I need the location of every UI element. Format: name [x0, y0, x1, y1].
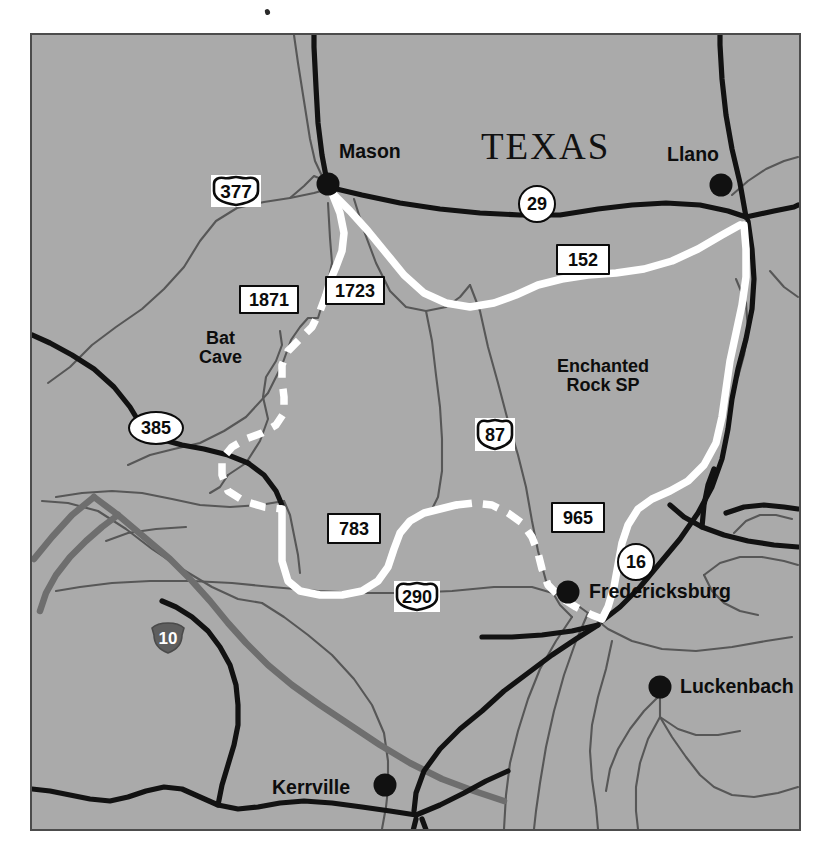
state-label: TEXAS: [481, 127, 610, 166]
map-page: TEXAS Mason Llano Fredericksburg Luckenb…: [0, 0, 828, 867]
route-shield-29-label: 29: [527, 195, 547, 213]
route-shield-377-label: 377: [220, 182, 252, 201]
route-shield-16[interactable]: 16: [617, 543, 655, 581]
route-shield-i10[interactable]: 10: [149, 621, 187, 655]
route-shield-i10-label: 10: [159, 630, 178, 647]
image-speck-artifact: [264, 8, 270, 15]
route-shield-965-label: 965: [563, 509, 593, 527]
city-dot-llano: [710, 174, 733, 197]
route-shield-87-label: 87: [485, 426, 505, 444]
route-shield-385[interactable]: 385: [128, 411, 184, 445]
route-shield-385-label: 385: [141, 419, 171, 437]
route-shield-1723[interactable]: 1723: [325, 276, 385, 305]
route-shield-290-label: 290: [402, 588, 432, 606]
route-shield-783-label: 783: [339, 520, 369, 538]
route-shield-1871[interactable]: 1871: [239, 285, 299, 314]
city-label-llano: Llano: [667, 144, 719, 165]
route-shield-16-label: 16: [626, 553, 646, 571]
city-label-kerrville: Kerrville: [272, 777, 350, 798]
route-shield-965[interactable]: 965: [551, 502, 605, 533]
map-frame: TEXAS Mason Llano Fredericksburg Luckenb…: [30, 33, 801, 831]
city-dot-luckenbach: [649, 676, 672, 699]
route-shield-290[interactable]: 290: [394, 581, 440, 612]
city-label-mason: Mason: [339, 141, 401, 162]
route-shield-1723-label: 1723: [335, 282, 375, 300]
place-label-enchanted-rock-sp: Enchanted Rock SP: [557, 357, 649, 395]
place-label-bat-cave: Bat Cave: [199, 329, 242, 367]
route-shield-377[interactable]: 377: [211, 175, 261, 207]
city-dot-mason: [317, 173, 340, 196]
city-label-fredericksburg: Fredericksburg: [589, 581, 731, 602]
city-label-luckenbach: Luckenbach: [680, 676, 794, 697]
route-shield-29[interactable]: 29: [518, 185, 556, 223]
route-shield-1871-label: 1871: [249, 291, 289, 309]
city-dot-fredericksburg: [557, 581, 580, 604]
route-shield-783[interactable]: 783: [327, 513, 381, 544]
city-dot-kerrville: [374, 774, 397, 797]
route-shield-152-label: 152: [568, 251, 598, 269]
route-shield-87[interactable]: 87: [475, 418, 515, 451]
route-shield-152[interactable]: 152: [556, 244, 610, 275]
